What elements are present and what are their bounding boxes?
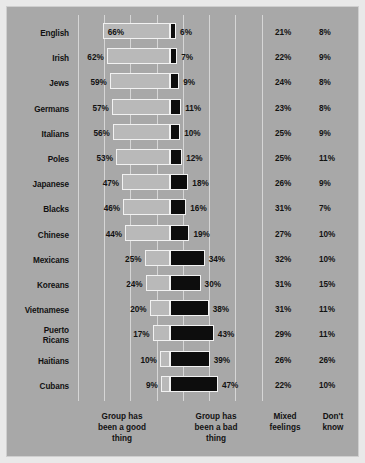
- chart-row: Jews59%9%24%8%: [7, 73, 358, 95]
- bar-good: [107, 48, 170, 64]
- value-dontknow: 26%: [319, 356, 335, 365]
- value-good: 59%: [90, 78, 107, 87]
- value-bad: 30%: [205, 280, 221, 289]
- value-mixed: 31%: [275, 280, 291, 289]
- value-bad: 10%: [184, 129, 200, 138]
- value-mixed: 31%: [275, 204, 291, 213]
- value-dontknow: 9%: [319, 129, 331, 138]
- value-bad: 6%: [180, 28, 192, 37]
- value-good: 20%: [130, 305, 147, 314]
- value-mixed: 24%: [275, 78, 291, 87]
- category-label: Mexicans: [7, 256, 69, 266]
- chart-row: Koreans24%30%31%15%: [7, 275, 358, 297]
- bar-bad: [170, 23, 176, 39]
- bar-good: [161, 376, 170, 392]
- category-label: Japanese: [7, 180, 69, 190]
- value-bad: 11%: [185, 104, 201, 113]
- value-bad: 39%: [214, 356, 230, 365]
- category-label: Jews: [7, 79, 69, 89]
- value-good: 57%: [92, 104, 109, 113]
- chart-row: Vietnamese20%38%31%11%: [7, 300, 358, 322]
- value-dontknow: 7%: [319, 204, 331, 213]
- value-good: 17%: [133, 330, 150, 339]
- bar-good: [125, 225, 170, 241]
- value-mixed: 26%: [275, 356, 291, 365]
- bar-bad: [170, 300, 209, 316]
- value-dontknow: 8%: [319, 78, 331, 87]
- chart-row: Mexicans25%34%32%10%: [7, 250, 358, 272]
- chart-row: PuertoRicans17%43%29%11%: [7, 325, 358, 347]
- value-mixed: 29%: [275, 330, 291, 339]
- chart-plate: English66%6%21%8%Irish62%7%22%9%Jews59%9…: [6, 6, 359, 457]
- value-good: 44%: [105, 230, 122, 239]
- category-label: Vietnamese: [7, 306, 69, 316]
- value-bad: 19%: [193, 230, 209, 239]
- value-bad: 47%: [222, 381, 238, 390]
- bar-good: [146, 275, 170, 291]
- footer-label-bad: Group hasbeen a badthing: [179, 411, 253, 444]
- value-bad: 16%: [190, 204, 206, 213]
- value-mixed: 25%: [275, 129, 291, 138]
- footer-label-mixed: Mixedfeelings: [262, 411, 308, 433]
- category-label: Cubans: [7, 382, 69, 392]
- value-dontknow: 11%: [319, 330, 335, 339]
- value-mixed: 25%: [275, 154, 291, 163]
- bar-good: [110, 73, 170, 89]
- bar-bad: [170, 199, 186, 215]
- bar-bad: [170, 376, 218, 392]
- bar-bad: [170, 73, 179, 89]
- value-dontknow: 8%: [319, 28, 331, 37]
- bar-bad: [170, 48, 177, 64]
- value-mixed: 31%: [275, 305, 291, 314]
- chart-row: English66%6%21%8%: [7, 23, 358, 45]
- chart-row: Italians56%10%25%9%: [7, 124, 358, 146]
- value-dontknow: 10%: [319, 230, 335, 239]
- value-good: 46%: [103, 204, 120, 213]
- bar-good: [150, 300, 170, 316]
- value-mixed: 27%: [275, 230, 291, 239]
- value-good: 66%: [108, 28, 124, 37]
- value-dontknow: 11%: [319, 154, 335, 163]
- category-label: Italians: [7, 130, 69, 140]
- bar-good: [160, 351, 170, 367]
- bar-good: [112, 99, 170, 115]
- category-label: Chinese: [7, 231, 69, 241]
- category-label: Blacks: [7, 205, 69, 215]
- value-mixed: 23%: [275, 104, 291, 113]
- category-label: English: [7, 29, 69, 39]
- value-bad: 38%: [213, 305, 229, 314]
- bar-good: [145, 250, 171, 266]
- category-label: Haitians: [7, 357, 69, 367]
- value-good: 47%: [102, 179, 119, 188]
- bar-good: [113, 124, 170, 140]
- chart-row: Haitians10%39%26%26%: [7, 351, 358, 373]
- bar-bad: [170, 149, 182, 165]
- value-bad: 9%: [183, 78, 195, 87]
- bar-good: [153, 325, 170, 341]
- chart-row: Cubans9%47%22%10%: [7, 376, 358, 398]
- value-mixed: 32%: [275, 255, 291, 264]
- value-dontknow: 9%: [319, 179, 331, 188]
- value-dontknow: 11%: [319, 305, 335, 314]
- value-dontknow: 15%: [319, 280, 335, 289]
- chart-row: Poles53%12%25%11%: [7, 149, 358, 171]
- value-mixed: 22%: [275, 381, 291, 390]
- category-label: Koreans: [7, 281, 69, 291]
- value-mixed: 26%: [275, 179, 291, 188]
- value-bad: 43%: [218, 330, 234, 339]
- bar-bad: [170, 99, 181, 115]
- chart-row: Japanese47%18%26%9%: [7, 174, 358, 196]
- value-good: 62%: [87, 53, 104, 62]
- value-mixed: 21%: [275, 28, 291, 37]
- bar-bad: [170, 351, 210, 367]
- category-label: PuertoRicans: [7, 326, 69, 345]
- bar-bad: [170, 225, 189, 241]
- value-bad: 7%: [181, 53, 193, 62]
- bar-bad: [170, 174, 188, 190]
- category-label: Poles: [7, 155, 69, 165]
- value-mixed: 22%: [275, 53, 291, 62]
- chart-row: Irish62%7%22%9%: [7, 48, 358, 70]
- bar-good: [122, 174, 170, 190]
- value-good: 24%: [126, 280, 143, 289]
- footer-label-good: Group hasbeen a goodthing: [83, 411, 161, 444]
